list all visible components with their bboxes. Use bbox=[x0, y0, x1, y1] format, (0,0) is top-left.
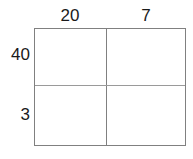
grid-cell-row0-col0[interactable] bbox=[35, 29, 106, 85]
row-label-40: 40 bbox=[0, 47, 30, 63]
column-label-7: 7 bbox=[106, 6, 186, 25]
grid-cell-row1-col1[interactable] bbox=[107, 86, 185, 145]
column-label-20: 20 bbox=[34, 6, 106, 25]
area-model-diagram: 20 7 40 3 bbox=[0, 0, 193, 159]
grid-cell-row0-col1[interactable] bbox=[107, 29, 185, 85]
grid-cell-row1-col0[interactable] bbox=[35, 86, 106, 145]
row-label-3: 3 bbox=[0, 107, 30, 123]
grid-outline bbox=[34, 28, 186, 146]
